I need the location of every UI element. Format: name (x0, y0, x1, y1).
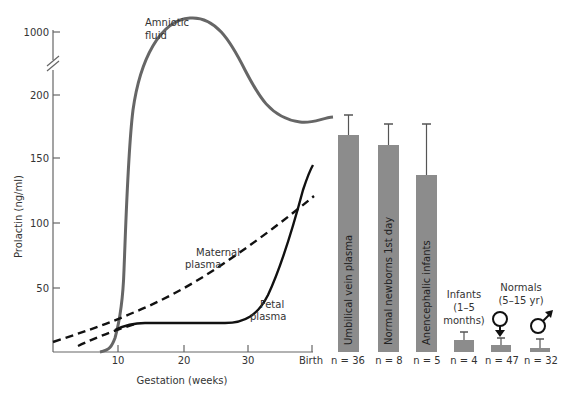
y-tick-50: 50 (36, 283, 49, 294)
y-tick-200: 200 (30, 90, 49, 101)
female-symbol-icon (493, 312, 507, 337)
label-normals-range: (5–15 yr) (498, 295, 543, 306)
label-fetal-plasma: plasma (250, 311, 286, 322)
label-infants-months: months) (443, 315, 485, 326)
bar-normals-female (491, 345, 511, 352)
x-tick-20: 20 (178, 355, 191, 366)
label-fetal: Fetal (260, 299, 284, 310)
n-label-newborns: n = 8 (375, 355, 402, 366)
label-infants: Infants (447, 289, 481, 300)
male-symbol-icon (531, 310, 553, 333)
x-axis: 10 20 30 Birth Gestation (weeks) (53, 345, 323, 386)
n-label-normals-male: n = 32 (524, 355, 558, 366)
y-tick-100: 100 (30, 218, 49, 229)
bar-label-umbilical: Umbilical vein plasma (343, 235, 354, 345)
bar-normals-male (530, 348, 550, 352)
label-fluid: fluid (145, 30, 167, 41)
y-axis: 1000 200 150 100 50 Prolactin (ng/ml) (13, 27, 60, 352)
label-amniotic: Amniotic (145, 17, 189, 28)
y-axis-title: Prolactin (ng/ml) (13, 175, 24, 258)
x-tick-birth: Birth (299, 355, 323, 366)
label-maternal-plasma: plasma (185, 259, 221, 270)
n-label-umbilical: n = 36 (331, 355, 365, 366)
x-axis-title: Gestation (weeks) (137, 375, 228, 386)
n-label-infants: n = 4 (450, 355, 477, 366)
x-tick-10: 10 (112, 355, 125, 366)
x-tick-30: 30 (242, 355, 255, 366)
y-tick-1000: 1000 (24, 27, 49, 38)
label-maternal: Maternal (196, 247, 240, 258)
bar-infants (454, 340, 474, 352)
n-label-anencephalic: n = 5 (413, 355, 440, 366)
label-infants-range: (1–5 (453, 302, 475, 313)
amniotic-fluid-curve (100, 18, 333, 352)
bar-label-newborns: Normal newborns 1st day (383, 217, 394, 345)
bar-label-anencephalic: Anencephalic infants (421, 240, 432, 345)
label-normals: Normals (500, 282, 541, 293)
maternal-plasma-curve-secondary (78, 324, 135, 346)
prolactin-chart: 1000 200 150 100 50 Prolactin (ng/ml) 10… (0, 0, 570, 393)
y-tick-150: 150 (30, 153, 49, 164)
n-label-normals-female: n = 47 (485, 355, 519, 366)
